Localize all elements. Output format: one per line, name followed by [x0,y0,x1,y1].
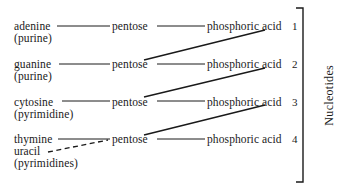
chain-link-diagonal [144,68,265,97]
base-class-label: (purine) [14,70,52,82]
nucleotide-number: 2 [292,58,298,70]
phosphate-label: phosphoric acid [207,96,282,108]
bracket-caption: Nucleotides [309,0,349,190]
sugar-label: pentose [112,58,148,70]
sugar-label: pentose [112,20,148,32]
nucleotide-number: 1 [292,20,298,32]
phosphate-label: phosphoric acid [207,58,282,70]
base-class-label: (pyrimidine) [14,108,73,120]
base-name-label: thymine [14,133,52,145]
base-class-label: (purine) [14,32,52,44]
grouping-bracket [296,8,303,182]
sugar-label: pentose [112,96,148,108]
base-name-label: guanine [14,58,51,70]
nucleotide-number: 3 [292,96,298,108]
base-name-label: adenine [14,20,50,32]
base-alt-name-label: uracil [14,145,40,157]
phosphate-label: phosphoric acid [207,20,282,32]
sugar-label: pentose [112,133,148,145]
nucleotide-structure-diagram: adenine (purine) pentose phosphoric acid… [0,0,351,190]
phosphate-label: phosphoric acid [207,133,282,145]
base-class-label: (pyrimidines) [14,157,78,169]
bracket-caption-text: Nucleotides [322,65,337,126]
chain-link-diagonal [144,30,265,60]
nucleotide-number: 4 [292,133,298,145]
base-name-label: cytosine [14,96,53,108]
uracil-connector-dashed-line [48,140,108,152]
chain-link-diagonal [144,105,265,135]
